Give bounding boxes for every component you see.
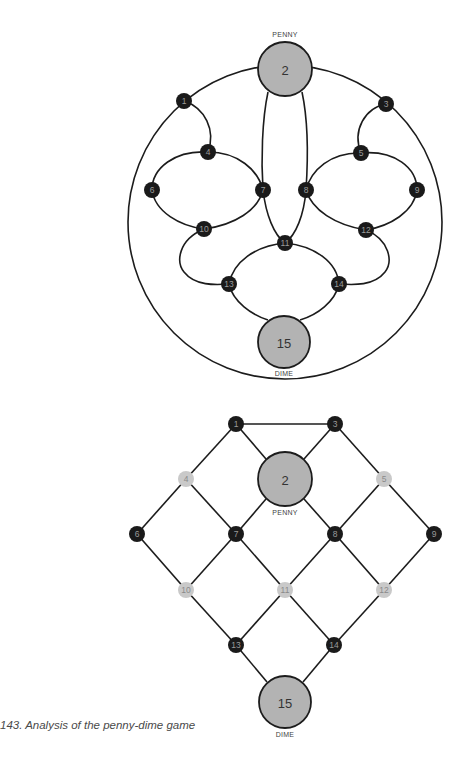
svg-text:12: 12 <box>379 585 389 595</box>
penny-coin-top: 2 PENNY <box>258 31 312 96</box>
svg-text:4: 4 <box>184 474 189 484</box>
dime-coin-top: 15 DIME <box>258 316 310 377</box>
svg-text:1: 1 <box>234 419 239 429</box>
svg-text:5: 5 <box>359 148 364 158</box>
dime-label: DIME <box>276 731 295 738</box>
svg-text:13: 13 <box>231 640 241 650</box>
top-node-13: 13 <box>221 276 237 292</box>
svg-text:12: 12 <box>361 225 371 235</box>
top-board: 2 PENNY 15 DIME 1 3 4 5 6 7 8 9 10 11 12… <box>128 31 442 379</box>
penny-label: PENNY <box>272 509 298 516</box>
edge-10-13 <box>180 229 229 285</box>
edge-5-9 <box>361 153 417 190</box>
edge-7-11 <box>236 534 285 590</box>
edge-5-8 <box>335 479 384 534</box>
bottom-node-10: 10 <box>178 582 194 598</box>
svg-text:13: 13 <box>224 279 234 289</box>
dime-coin-bottom: 15 DIME <box>259 676 311 738</box>
dime-number: 15 <box>278 696 292 711</box>
top-node-5: 5 <box>353 145 369 161</box>
top-node-12: 12 <box>358 222 374 238</box>
edge-6-10 <box>137 534 186 590</box>
top-node-4: 4 <box>200 144 216 160</box>
svg-text:8: 8 <box>304 185 309 195</box>
edge-10-13 <box>186 590 236 645</box>
svg-text:7: 7 <box>234 529 239 539</box>
svg-text:10: 10 <box>181 585 191 595</box>
penny-number: 2 <box>281 63 288 78</box>
svg-text:9: 9 <box>432 529 437 539</box>
top-node-7: 7 <box>255 182 271 198</box>
svg-text:6: 6 <box>150 185 155 195</box>
edge-12-14 <box>339 230 389 285</box>
svg-text:11: 11 <box>281 238 290 248</box>
svg-text:14: 14 <box>334 279 344 289</box>
edge-5-9 <box>384 479 434 534</box>
edge-10-7 <box>204 190 263 229</box>
svg-text:9: 9 <box>415 185 420 195</box>
top-node-11: 11 <box>277 235 293 251</box>
top-node-14: 14 <box>331 276 347 292</box>
edge-5-8 <box>306 153 361 190</box>
bottom-node-14: 14 <box>326 637 342 653</box>
svg-text:3: 3 <box>333 419 338 429</box>
edge-1-4 <box>186 424 236 479</box>
edge-4-7 <box>208 152 263 190</box>
penny-dime-figure: 2 PENNY 15 DIME 1 3 4 5 6 7 8 9 10 11 12… <box>0 0 465 758</box>
bottom-node-5: 5 <box>376 471 392 487</box>
edge-11-14 <box>285 590 334 645</box>
edge-9-12 <box>384 534 434 590</box>
svg-text:4: 4 <box>206 147 211 157</box>
top-node-3: 3 <box>378 96 394 112</box>
bottom-node-6: 6 <box>129 526 145 542</box>
penny-number: 2 <box>281 473 288 488</box>
top-node-6: 6 <box>144 182 160 198</box>
edge-2-7 <box>262 92 268 190</box>
bottom-node-1: 1 <box>228 416 244 432</box>
edge-6-10 <box>152 190 204 229</box>
top-node-1: 1 <box>176 93 192 109</box>
bottom-node-4: 4 <box>178 471 194 487</box>
svg-text:10: 10 <box>199 224 209 234</box>
svg-text:7: 7 <box>261 185 266 195</box>
svg-text:8: 8 <box>333 529 338 539</box>
edge-9-12 <box>366 190 417 230</box>
edge-8-12 <box>335 534 384 590</box>
svg-text:14: 14 <box>329 640 339 650</box>
edge-7-10 <box>186 534 236 590</box>
edge-8-11 <box>285 534 335 590</box>
dime-label: DIME <box>275 370 294 377</box>
bottom-node-13: 13 <box>228 637 244 653</box>
edge-8-11 <box>285 190 306 243</box>
figure-caption: 143. Analysis of the penny-dime game <box>0 719 195 731</box>
top-node-9: 9 <box>409 182 425 198</box>
edge-12-14 <box>334 590 384 645</box>
svg-text:6: 6 <box>135 529 140 539</box>
svg-text:5: 5 <box>382 474 387 484</box>
dime-number: 15 <box>277 336 291 351</box>
edge-3-5 <box>335 424 384 479</box>
edge-7-11 <box>263 190 285 243</box>
bottom-node-11: 11 <box>277 582 293 598</box>
bottom-node-12: 12 <box>376 582 392 598</box>
edge-11-14 <box>285 243 339 284</box>
edge-11-13 <box>236 590 285 645</box>
svg-text:11: 11 <box>281 585 290 595</box>
svg-text:1: 1 <box>182 96 187 106</box>
top-node-10: 10 <box>196 221 212 237</box>
edge-4-7 <box>186 479 236 534</box>
bottom-lattice: 2 PENNY 15 DIME 1 3 4 5 6 7 8 9 10 11 12… <box>129 416 442 738</box>
svg-text:3: 3 <box>384 99 389 109</box>
penny-label: PENNY <box>272 31 298 38</box>
edge-2-8 <box>302 92 307 190</box>
bottom-node-3: 3 <box>327 416 343 432</box>
bottom-node-7: 7 <box>228 526 244 542</box>
edge-11-13 <box>229 243 285 284</box>
penny-coin-bottom: 2 PENNY <box>258 452 312 516</box>
edge-12-8 <box>306 190 366 230</box>
bottom-node-9: 9 <box>426 526 442 542</box>
edge-4-6 <box>152 152 208 190</box>
bottom-node-8: 8 <box>327 526 343 542</box>
top-node-8: 8 <box>298 182 314 198</box>
edge-4-6 <box>137 479 186 534</box>
